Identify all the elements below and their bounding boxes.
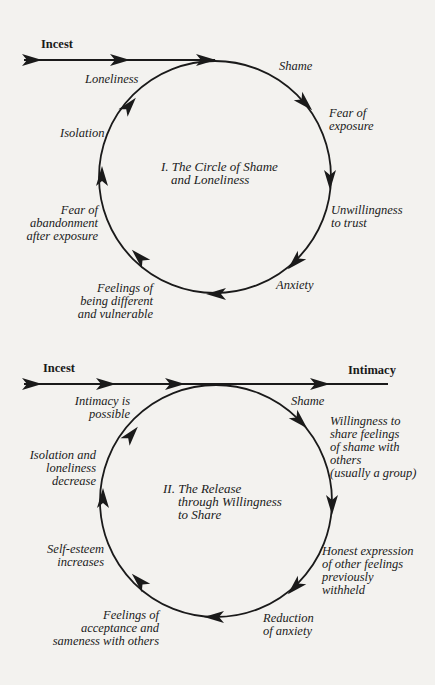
node-label: Self-esteemincreases bbox=[47, 543, 104, 569]
end-label: Intimacy bbox=[348, 364, 396, 377]
node-label: Anxiety bbox=[276, 279, 313, 292]
start-label: Incest bbox=[41, 38, 73, 51]
node-label: Honest expressionof other feelingsprevio… bbox=[322, 545, 414, 597]
node-label: Willingness toshare feelingsof shame wit… bbox=[330, 415, 416, 480]
node-label: Feelings ofbeing differentand vulnerable bbox=[78, 282, 153, 321]
node-label: Shame bbox=[291, 395, 324, 408]
node-label: Intimacy ispossible bbox=[75, 395, 130, 421]
node-label: Loneliness bbox=[85, 73, 138, 86]
node-label: Shame bbox=[279, 60, 312, 73]
node-label: Isolation bbox=[60, 127, 104, 140]
diagram-title: and Loneliness bbox=[171, 173, 249, 186]
start-label: Incest bbox=[43, 362, 75, 375]
diagram-title: to Share bbox=[178, 508, 221, 521]
node-label: Unwillingnessto trust bbox=[331, 204, 403, 230]
node-label: Fear ofabandonmentafter exposure bbox=[27, 204, 98, 243]
node-label: Feelings ofacceptance andsameness with o… bbox=[53, 609, 159, 648]
node-label: Fear ofexposure bbox=[329, 107, 374, 133]
cycle-arrows bbox=[96, 92, 336, 300]
node-label: Reductionof anxiety bbox=[263, 612, 314, 638]
node-label: Isolation andlonelinessdecrease bbox=[30, 449, 96, 488]
